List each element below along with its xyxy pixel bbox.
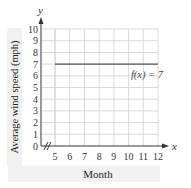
y-tick-label: 10: [28, 24, 38, 35]
x-axis-arrow-icon: [162, 144, 169, 149]
x-tick-label: 8: [97, 151, 102, 162]
x-tick-label: 9: [111, 151, 116, 162]
y-axis-arrow-icon: [39, 17, 44, 24]
y-tick-label: 1: [33, 129, 38, 140]
y-tick-label: 2: [33, 117, 38, 128]
y-tick-label: 8: [33, 47, 38, 58]
x-tick-label: 7: [82, 151, 87, 162]
y-tick-label: 9: [33, 35, 38, 46]
y-tick-label: 4: [33, 94, 38, 105]
y-axis-name: y: [37, 4, 43, 16]
x-tick-label: 11: [138, 151, 148, 162]
plot-area: yx01234567891056789101112f(x) = 7: [0, 0, 191, 188]
y-tick-label: 3: [33, 105, 38, 116]
y-tick-label: 0: [33, 141, 38, 152]
y-tick-label: 5: [33, 82, 38, 93]
x-tick-label: 5: [53, 151, 58, 162]
y-tick-label: 6: [33, 70, 38, 81]
y-tick-label: 7: [33, 59, 38, 70]
x-tick-label: 6: [67, 151, 72, 162]
x-tick-label: 12: [153, 151, 163, 162]
x-axis-name: x: [171, 140, 177, 152]
function-annotation: f(x) = 7: [131, 69, 164, 81]
x-tick-label: 10: [124, 151, 134, 162]
